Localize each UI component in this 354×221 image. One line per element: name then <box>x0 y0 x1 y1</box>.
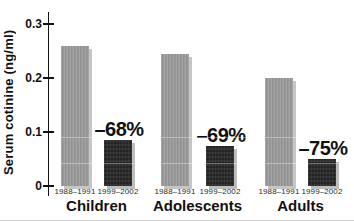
period-label-children-2: 1999–2002 <box>98 187 139 196</box>
y-axis-tick-label: 0.2 <box>12 71 42 85</box>
y-axis-tick-label: 0 <box>12 179 42 193</box>
period-label-adolescents-2: 1999–2002 <box>200 187 241 196</box>
y-axis-tick <box>43 185 54 187</box>
period-label-adolescents-1: 1988–1991 <box>155 187 196 196</box>
serum-cotinine-bar-chart: Serum cotinine (ng/ml) 00.10.20.31988–19… <box>0 0 354 221</box>
percent-change-adults: –75% <box>298 139 347 157</box>
period-label-adults-1: 1988–1991 <box>259 187 300 196</box>
y-axis-tick-label: 0.3 <box>12 17 42 31</box>
group-label-children: Children <box>66 197 127 214</box>
y-axis-tick-label: 0.1 <box>12 125 42 139</box>
percent-change-adolescents: –69% <box>196 126 245 144</box>
y-axis-tick <box>43 77 54 79</box>
percent-change-children: –68% <box>94 120 143 138</box>
y-axis-tick <box>43 131 54 133</box>
bar-adolescents-1999-2002 <box>206 146 234 187</box>
bar-adults-1988-1991 <box>265 78 293 186</box>
bar-adults-1999-2002 <box>308 159 336 186</box>
bar-children-1999-2002 <box>104 140 132 186</box>
bar-children-1988-1991 <box>61 46 89 186</box>
period-label-children-1: 1988–1991 <box>55 187 96 196</box>
group-label-adolescents: Adolescents <box>153 197 242 214</box>
period-label-adults-2: 1999–2002 <box>302 187 343 196</box>
bar-adolescents-1988-1991 <box>161 54 189 186</box>
y-axis-line <box>48 12 50 196</box>
y-axis-tick <box>43 23 54 25</box>
y-axis-title: Serum cotinine (ng/ml) <box>1 22 19 182</box>
group-label-adults: Adults <box>277 197 324 214</box>
